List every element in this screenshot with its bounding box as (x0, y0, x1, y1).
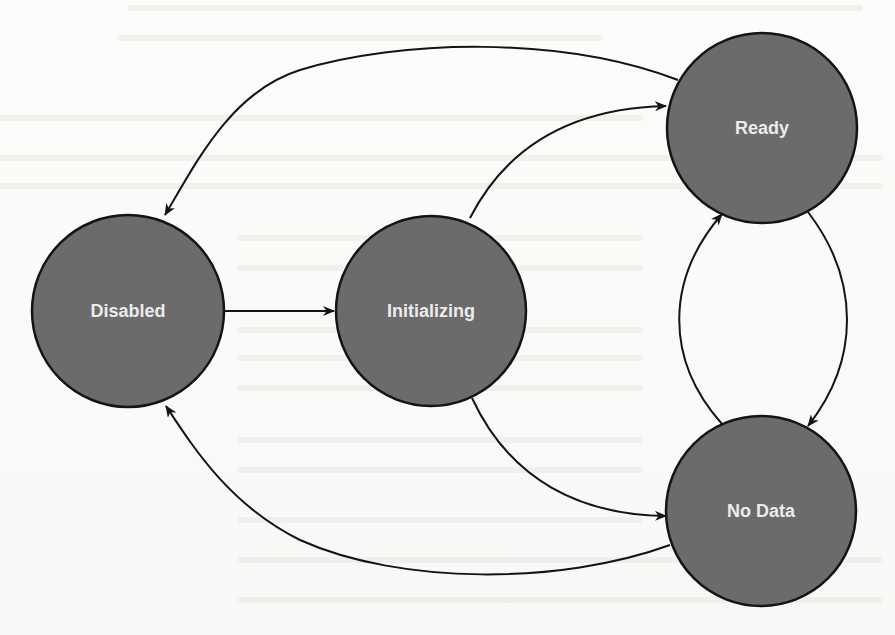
node-no-data: No Data (666, 416, 856, 606)
edge-ready-to-disabled (165, 47, 678, 215)
node-initializing: Initializing (336, 216, 526, 406)
edge-initializing-to-ready (470, 106, 666, 218)
edge-no-data-to-ready (679, 214, 722, 424)
page-background: Disabled Initializing Ready No Data (0, 0, 895, 635)
node-label-disabled: Disabled (90, 301, 165, 321)
edge-no-data-to-disabled (166, 406, 670, 574)
node-disabled: Disabled (32, 215, 224, 407)
state-diagram: Disabled Initializing Ready No Data (0, 0, 895, 635)
node-ready: Ready (667, 33, 857, 223)
edge-ready-to-no-data (808, 212, 847, 426)
node-label-ready: Ready (735, 118, 789, 138)
node-label-no-data: No Data (727, 501, 796, 521)
edge-initializing-to-no-data (472, 398, 666, 516)
node-label-initializing: Initializing (387, 301, 475, 321)
